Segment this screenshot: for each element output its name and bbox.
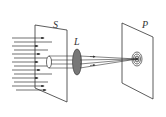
transmitted-beam: [49, 56, 74, 68]
diffraction-rings: [132, 52, 142, 66]
lens-l: [73, 49, 82, 75]
label-s: S: [53, 19, 58, 30]
incident-rays: [12, 38, 52, 90]
label-p: P: [141, 19, 148, 30]
label-l: L: [73, 36, 80, 47]
screen-p: [122, 23, 153, 99]
diffraction-diagram: S L P: [0, 0, 166, 117]
aperture: [47, 56, 52, 68]
converging-rays: [80, 56, 137, 68]
